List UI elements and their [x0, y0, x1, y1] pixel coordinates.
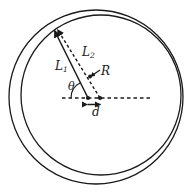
label-theta: θ: [68, 81, 75, 92]
label-L2: L2: [82, 46, 95, 59]
inner-circle: [21, 15, 181, 175]
label-R: R: [101, 65, 110, 77]
label-d: d: [92, 106, 100, 118]
label-L1: L1: [55, 60, 68, 73]
figure-canvas: [0, 0, 196, 196]
vertex-point-left: [86, 96, 90, 100]
radius-point: [88, 75, 92, 79]
radius-arrow-R: [91, 70, 101, 77]
geometry-figure: L1 L2 R θ d: [0, 0, 196, 196]
vertex-point-right: [98, 96, 102, 100]
outer-circle: [9, 10, 183, 184]
